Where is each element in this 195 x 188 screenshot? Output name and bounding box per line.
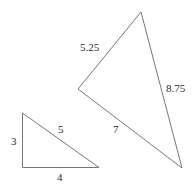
label-small-side-4: 4 [57,172,63,183]
large-triangle-edge-7 [78,89,182,168]
triangles-canvas [0,0,195,188]
similar-triangles-diagram: 5.25 8.75 7 3 5 4 [0,0,195,188]
label-small-side-3: 3 [11,136,17,147]
label-small-side-5: 5 [58,124,64,135]
label-large-side-5-25: 5.25 [80,42,99,53]
label-large-side-8-75: 8.75 [166,83,185,94]
small-triangle-edge-5 [23,113,100,168]
label-large-side-7: 7 [113,124,119,135]
small-triangle [23,113,100,168]
